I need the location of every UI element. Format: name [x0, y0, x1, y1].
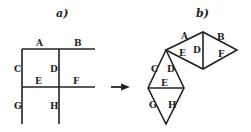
- label-g: G: [14, 101, 22, 111]
- label-f: F: [73, 76, 80, 86]
- label-e-upper: E: [179, 48, 186, 58]
- panel-b-title: b): [196, 7, 209, 20]
- label-a: A: [180, 31, 189, 41]
- label-f: F: [218, 49, 225, 59]
- label-h: H: [168, 100, 177, 110]
- label-d-lower: D: [167, 64, 175, 74]
- panel-b: b) A B D E F C D E G H: [148, 7, 237, 124]
- label-a: A: [35, 38, 44, 48]
- label-d-upper: D: [193, 45, 201, 55]
- label-b: B: [217, 32, 225, 42]
- label-e-lower: E: [161, 78, 168, 88]
- label-e: E: [35, 76, 42, 86]
- label-b: B: [74, 38, 82, 48]
- label-c: C: [151, 64, 158, 74]
- label-g: G: [149, 100, 157, 110]
- panel-a-title: a): [56, 7, 68, 20]
- label-h: H: [50, 101, 59, 111]
- label-d: D: [50, 64, 58, 74]
- panel-a: a) A B C D E F G H: [14, 7, 95, 124]
- diagram-canvas: a) A B C D E F G H b) A B D E F C D E G …: [0, 0, 251, 132]
- arrow-right-icon: [111, 84, 130, 91]
- upper-diamond: [166, 32, 237, 69]
- label-c: C: [14, 64, 21, 74]
